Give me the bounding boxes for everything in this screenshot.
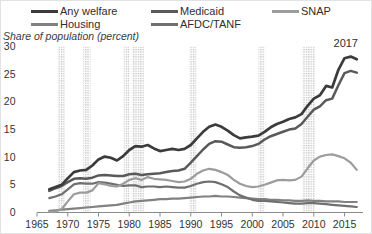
svg-text:1975: 1975 [87, 218, 111, 230]
welfare-share-chart: Any welfare Medicaid SNAP Housing AFDC/T… [0, 0, 372, 234]
svg-text:25: 25 [4, 68, 16, 80]
svg-text:1985: 1985 [148, 218, 172, 230]
svg-text:2005: 2005 [271, 218, 295, 230]
svg-text:2000: 2000 [241, 218, 265, 230]
svg-text:1980: 1980 [118, 218, 142, 230]
svg-text:1970: 1970 [56, 218, 80, 230]
svg-text:1995: 1995 [210, 218, 234, 230]
svg-text:1965: 1965 [25, 218, 49, 230]
svg-text:2015: 2015 [333, 218, 357, 230]
svg-text:20: 20 [4, 95, 16, 107]
svg-text:2010: 2010 [302, 218, 326, 230]
svg-text:0: 0 [10, 206, 16, 218]
svg-text:30: 30 [4, 40, 16, 52]
svg-text:15: 15 [4, 123, 16, 135]
plot-area: 1965197019751980198519901995200020052010… [1, 1, 371, 233]
svg-text:1990: 1990 [179, 218, 203, 230]
svg-text:10: 10 [4, 151, 16, 163]
svg-text:5: 5 [10, 178, 16, 190]
